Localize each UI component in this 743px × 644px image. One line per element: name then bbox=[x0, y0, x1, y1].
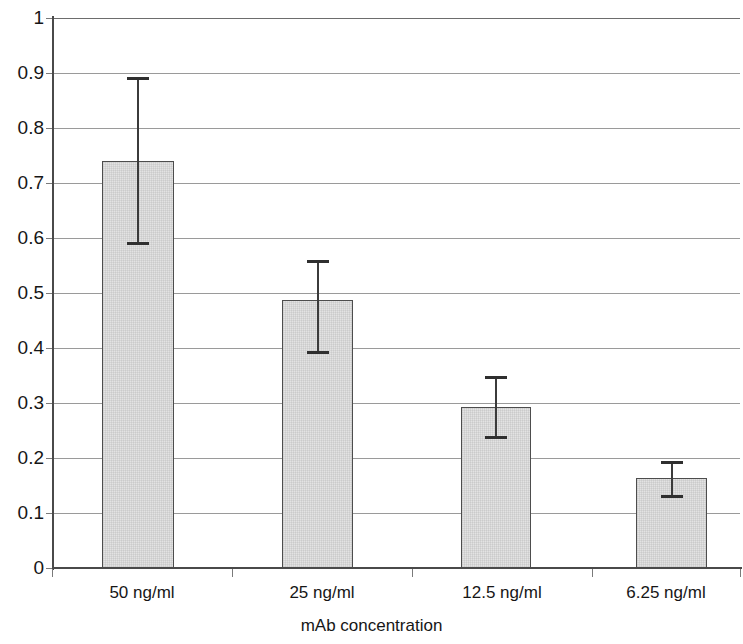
y-tick-label: 0.9 bbox=[18, 63, 44, 82]
error-bar-cap-bottom bbox=[307, 351, 329, 354]
x-category-label: 25 ng/ml bbox=[232, 583, 412, 603]
gridline bbox=[52, 73, 740, 74]
error-bar bbox=[657, 461, 687, 497]
error-bar-cap-top bbox=[661, 461, 683, 464]
error-bar-stem bbox=[671, 461, 673, 497]
error-bar-cap-bottom bbox=[485, 436, 507, 439]
bar-chart: 00.10.20.30.40.50.60.70.80.91 50 ng/ml25… bbox=[0, 0, 743, 644]
y-tick-label: 0.8 bbox=[18, 118, 44, 137]
x-category-label: 50 ng/ml bbox=[52, 583, 232, 603]
x-tick-mark bbox=[232, 569, 233, 577]
y-tick-label: 1 bbox=[33, 8, 44, 27]
y-axis-labels: 00.10.20.30.40.50.60.70.80.91 bbox=[0, 0, 44, 644]
error-bar-cap-top bbox=[127, 77, 149, 80]
x-tick-mark bbox=[592, 569, 593, 577]
error-bar-cap-top bbox=[307, 260, 329, 263]
y-tick-label: 0.4 bbox=[18, 338, 44, 357]
x-tick-mark bbox=[740, 569, 741, 577]
error-bar bbox=[481, 376, 511, 440]
error-bar-cap-bottom bbox=[127, 242, 149, 245]
x-category-label: 12.5 ng/ml bbox=[412, 583, 592, 603]
y-tick-label: 0 bbox=[33, 558, 44, 577]
y-tick-label: 0.6 bbox=[18, 228, 44, 247]
error-bar-cap-top bbox=[485, 376, 507, 379]
x-tick-mark bbox=[412, 569, 413, 577]
gridline bbox=[52, 128, 740, 129]
x-axis-line bbox=[52, 567, 742, 569]
gridline bbox=[52, 18, 740, 19]
x-tick-mark bbox=[52, 569, 53, 577]
plot-area bbox=[52, 18, 740, 568]
y-tick-label: 0.3 bbox=[18, 393, 44, 412]
error-bar-stem bbox=[317, 260, 319, 354]
error-bar-stem bbox=[137, 77, 139, 244]
y-tick-label: 0.5 bbox=[18, 283, 44, 302]
x-category-label: 6.25 ng/ml bbox=[592, 583, 740, 603]
y-tick-label: 0.7 bbox=[18, 173, 44, 192]
x-axis-title: mAb concentration bbox=[0, 616, 743, 636]
y-tick-label: 0.2 bbox=[18, 448, 44, 467]
error-bar bbox=[123, 77, 153, 244]
error-bar-cap-bottom bbox=[661, 495, 683, 498]
error-bar bbox=[303, 260, 333, 354]
y-axis-line bbox=[52, 16, 54, 570]
error-bar-stem bbox=[495, 376, 497, 440]
y-tick-label: 0.1 bbox=[18, 503, 44, 522]
